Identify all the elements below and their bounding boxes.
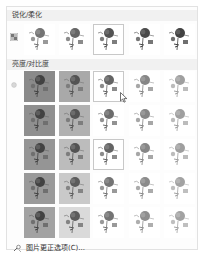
sharpen-thumbnail[interactable] [164,24,195,55]
brightness-contrast-thumbnail[interactable] [24,105,55,136]
picture-corrections-options-label: 图片更正选项(C)... [26,244,85,252]
brightness-contrast-thumbnail[interactable] [59,139,90,170]
brightness-contrast-thumbnail[interactable] [24,71,55,102]
sharpen-grid-icon [10,26,18,34]
brightness-contrast-thumbnail[interactable] [164,105,195,136]
brightness-contrast-thumbnail[interactable] [59,105,90,136]
brightness-contrast-thumbnail[interactable] [129,105,160,136]
section-header-sharpen-soften: 锐化/柔化 [7,10,197,21]
picture-corrections-icon [13,244,22,253]
brightness-contrast-thumbnail[interactable] [24,139,55,170]
brightness-contrast-thumbnail[interactable] [164,139,195,170]
section-header-brightness-contrast: 亮度/对比度 [7,59,197,70]
sharpen-thumbnail[interactable] [24,24,55,55]
brightness-contrast-thumbnail[interactable] [59,207,90,238]
brightness-contrast-thumbnail[interactable] [24,173,55,204]
picture-corrections-options-link[interactable]: 图片更正选项(C)... [13,242,85,254]
brightness-contrast-thumbnail[interactable] [93,173,124,204]
sharpen-thumbnail[interactable] [93,24,124,55]
brightness-contrast-thumbnail[interactable] [164,173,195,204]
picture-corrections-gallery: 锐化/柔化 [6,6,198,250]
brightness-contrast-thumbnail[interactable] [24,207,55,238]
sharpen-thumbnail[interactable] [129,24,160,55]
brightness-sun-icon [10,74,18,82]
brightness-contrast-thumbnail[interactable] [129,173,160,204]
brightness-contrast-thumbnail[interactable] [59,71,90,102]
brightness-contrast-thumbnail[interactable] [164,207,195,238]
sharpen-thumbnail[interactable] [59,24,90,55]
brightness-contrast-thumbnail[interactable] [93,139,124,170]
brightness-contrast-thumbnail[interactable] [164,71,195,102]
brightness-contrast-thumbnail[interactable] [93,105,124,136]
brightness-contrast-thumbnail[interactable] [129,139,160,170]
mouse-cursor-icon [120,92,128,103]
brightness-contrast-thumbnail[interactable] [59,173,90,204]
brightness-contrast-thumbnail[interactable] [129,207,160,238]
brightness-contrast-thumbnail[interactable] [93,207,124,238]
brightness-contrast-thumbnail[interactable] [129,71,160,102]
